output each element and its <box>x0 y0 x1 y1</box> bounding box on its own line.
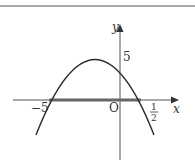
x-axis-label: x <box>173 102 180 116</box>
parabola-curve <box>36 60 154 136</box>
right-root-denominator: 2 <box>151 113 157 123</box>
parabola-diagram: y 5 −5 O 1 2 x <box>0 0 195 167</box>
origin-label: O <box>109 101 119 115</box>
right-root-numerator: 1 <box>151 102 157 112</box>
left-root-label: −5 <box>31 101 49 115</box>
y-intercept-label: 5 <box>123 50 131 64</box>
y-axis-label: y <box>111 20 119 34</box>
